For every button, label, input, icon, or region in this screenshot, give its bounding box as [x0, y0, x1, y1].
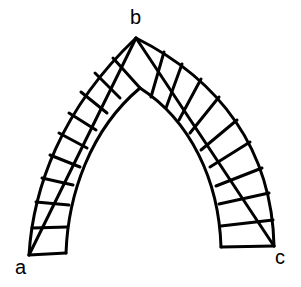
right-base-line: [221, 246, 274, 247]
label-a: a: [15, 256, 27, 278]
diagonal-b-to-a: [29, 38, 136, 255]
arch-diagram: b a c: [0, 0, 301, 287]
left-inner-curve: [66, 88, 140, 253]
right-voussoir-joints: [151, 52, 273, 226]
left-base-line: [29, 253, 66, 255]
right-arch-ring: [136, 38, 274, 247]
left-voussoir-joints: [32, 58, 140, 228]
label-c: c: [275, 246, 285, 268]
label-b: b: [130, 6, 141, 28]
diagonal-b-to-c: [136, 38, 274, 246]
left-arch-ring: [29, 38, 140, 255]
